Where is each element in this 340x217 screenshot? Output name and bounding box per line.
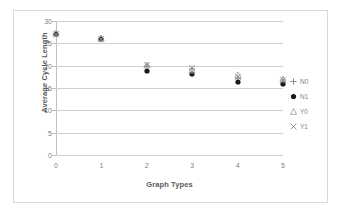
legend-label: N0 [300,78,308,85]
x-axis-tick-label: 4 [236,162,240,169]
x-axis-tick-labels: 012345 [56,162,283,172]
legend-label: N1 [300,93,308,100]
gridline [56,21,283,22]
data-point-y1 [98,35,105,42]
y-axis-tick-mark [52,133,56,134]
filled-circle-marker-icon [290,93,297,100]
y-axis-title: Average Cycle Length [40,6,49,140]
gridline [56,88,283,89]
gridline [56,155,283,156]
y-axis-tick-mark [52,155,56,156]
chart-figure: 051015202530 Average Cycle Length 012345… [0,0,340,217]
data-point-y1 [234,74,241,81]
plus-marker-icon [290,78,297,85]
data-point-y0 [98,35,105,42]
gridline [56,110,283,111]
x-axis-tick-label: 5 [281,162,285,169]
legend-label: Y0 [300,108,308,115]
y-axis-tick-mark [52,110,56,111]
legend-item-n0[interactable]: N0 [290,74,330,89]
legend-item-n1[interactable]: N1 [290,89,330,104]
data-point-n1 [234,79,241,86]
data-point-n0 [189,66,196,73]
y-axis-tick-mark [52,66,56,67]
legend-item-y0[interactable]: Y0 [290,104,330,119]
x-axis-tick-label: 2 [145,162,149,169]
x-axis-tick-label: 1 [99,162,103,169]
cross-marker-icon [290,123,297,130]
gridline [56,66,283,67]
data-point-n0 [98,35,105,42]
legend-label: Y1 [300,123,308,130]
y-axis-tick-mark [52,43,56,44]
y-axis-tick-mark [52,88,56,89]
data-point-n0 [234,75,241,82]
gridline [56,43,283,44]
data-point-y0 [189,67,196,74]
data-point-n1 [189,70,196,77]
chart-legend: N0N1Y0Y1 [290,74,330,134]
gridline [56,133,283,134]
y-axis-tick-mark [52,21,56,22]
legend-item-y1[interactable]: Y1 [290,119,330,134]
data-point-n1 [143,68,150,75]
y-axis-title-wrap: Average Cycle Length [24,21,36,155]
triangle-marker-icon [290,108,297,115]
plot-area [56,21,283,155]
x-axis-tick-label: 0 [54,162,58,169]
x-axis-tick-label: 3 [190,162,194,169]
data-point-n1 [98,36,105,43]
x-axis-title: Graph Types [56,180,283,189]
data-point-y0 [234,72,241,79]
